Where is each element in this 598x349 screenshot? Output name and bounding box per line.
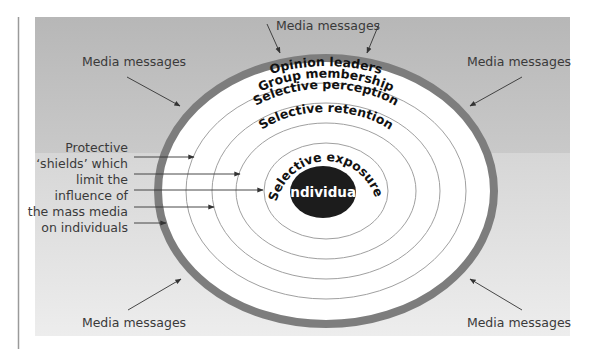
shields-note-line: on individuals: [41, 220, 128, 235]
media-label-upper-right: Media messages: [467, 54, 571, 69]
media-label-lower-right: Media messages: [467, 315, 571, 330]
shields-note-line: influence of: [55, 188, 129, 203]
individual-label: Individual: [285, 184, 360, 200]
shields-note-line: Protective: [65, 140, 128, 155]
diagram-canvas: Individual Opinion leaders Group members…: [0, 0, 598, 349]
media-label-lower-left: Media messages: [82, 315, 186, 330]
shields-note-line: limit the: [76, 172, 128, 187]
media-label-top: Media messages: [276, 18, 380, 33]
shields-note-line: the mass media: [28, 204, 128, 219]
shields-note-line: ‘shields’ which: [36, 156, 128, 171]
media-label-upper-left: Media messages: [82, 54, 186, 69]
